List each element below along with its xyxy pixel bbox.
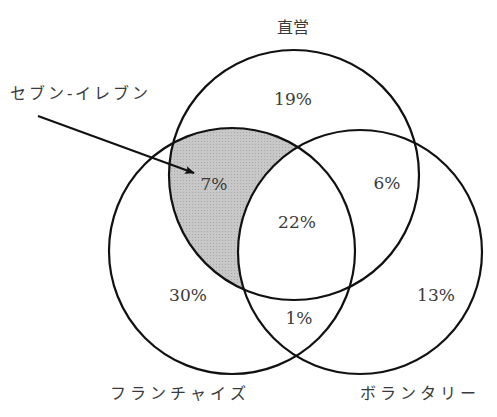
venn-diagram: 直営 フランチャイズ ボランタリー セブン-イレブン 19% 7% 6% 22%…: [0, 0, 497, 417]
value-all-three: 22%: [278, 212, 316, 232]
callout-label: セブン-イレブン: [10, 84, 151, 103]
value-direct-only: 19%: [274, 89, 312, 109]
value-voluntary-only: 13%: [417, 285, 455, 305]
value-franchise-only: 30%: [169, 285, 207, 305]
value-direct-voluntary: 6%: [374, 173, 401, 193]
highlight-region-seven-eleven: [109, 128, 355, 374]
set-label-franchise: フランチャイズ: [110, 384, 250, 403]
value-direct-franchise: 7%: [201, 174, 228, 194]
set-label-direct: 直営: [277, 18, 309, 37]
value-franchise-voluntary: 1%: [286, 308, 313, 328]
set-label-voluntary: ボランタリー: [360, 384, 480, 403]
